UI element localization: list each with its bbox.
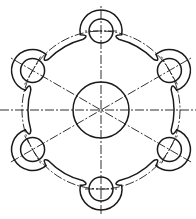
- technical-drawing: [0, 0, 196, 219]
- hole-cross-line: [25, 136, 41, 164]
- hole-cross-line: [161, 136, 177, 164]
- hole-cross-line: [25, 57, 41, 85]
- center-lines: [0, 6, 196, 214]
- hole-cross-line: [161, 57, 177, 85]
